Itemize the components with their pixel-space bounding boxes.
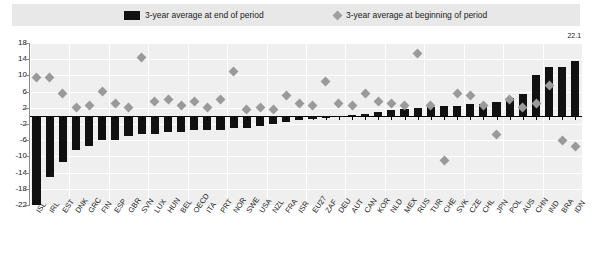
x-axis-tick-label: GBR <box>127 197 142 215</box>
chart-root: 3-year average at end of period 3-year a… <box>0 0 592 257</box>
x-axis-tick-label: FIN <box>100 200 113 214</box>
x-axis-tick-label: SVK <box>455 198 470 215</box>
x-axis-tick-label: JPN <box>495 198 509 214</box>
x-axis-tick-label: ESP <box>113 198 128 215</box>
x-axis-tick-label: CZE <box>468 198 483 215</box>
x-axis-tick-label: LUX <box>153 198 168 214</box>
x-axis-tick-label: AUT <box>350 198 365 215</box>
x-axis-tick-label: ITA <box>205 201 218 214</box>
x-axis-tick-label: SWE <box>245 196 261 214</box>
x-axis-tick-label: CHE <box>442 197 457 214</box>
x-axis-tick-label: POL <box>508 198 523 215</box>
x-axis-tick-label: TUR <box>429 197 444 214</box>
x-axis-tick-label: CHN <box>534 197 549 215</box>
x-axis-tick-label: NOR <box>232 196 248 214</box>
x-axis-tick-label: AUS <box>521 197 536 214</box>
x-axis-tick-label: HUN <box>166 197 181 215</box>
x-axis-tick-label: IRL <box>48 200 61 214</box>
x-axis-tick-label: EST <box>61 198 76 214</box>
x-axis-tick-label: NZL <box>271 198 285 214</box>
x-axis-tick-label: ISL <box>35 201 48 215</box>
x-axis-tick-label: DNK <box>74 197 89 214</box>
x-axis-tick-label: MEX <box>403 197 418 215</box>
x-axis-tick-label: CAN <box>363 197 378 214</box>
x-axis-tick-label: DEU <box>337 197 352 214</box>
x-axis-labels: ISLIRLESTDNKGRCFINESPGBRSVNLUXHUNBELOECD… <box>0 0 592 257</box>
x-axis-tick-label: CHL <box>481 198 496 215</box>
x-axis-tick-label: PRT <box>219 198 234 214</box>
x-axis-tick-label: RUS <box>416 197 431 214</box>
bar-value-label: 22.1 <box>567 32 581 39</box>
x-axis-tick-label: FRA <box>284 198 299 215</box>
